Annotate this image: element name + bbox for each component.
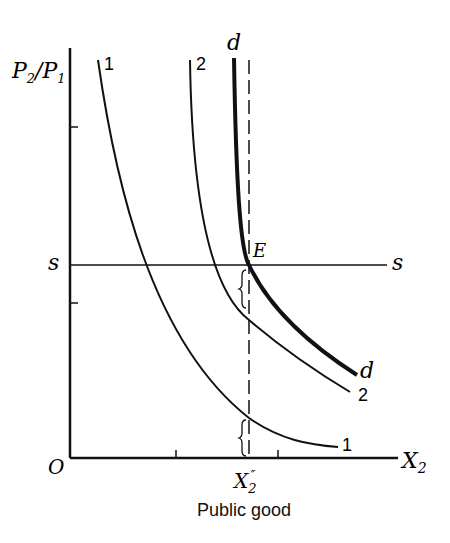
curve1-end-label: 1 xyxy=(342,435,352,456)
aggregate-demand-curve xyxy=(234,58,357,375)
y-axis-label: P2/P1 xyxy=(12,58,66,86)
caption: Public good xyxy=(197,500,291,521)
brace-lower xyxy=(239,420,246,456)
curve-d-end-label: d xyxy=(360,358,374,383)
x-axis-label: X2 xyxy=(402,448,427,476)
demand-curve-1 xyxy=(98,60,338,447)
curve2-end-label: 2 xyxy=(358,385,368,406)
public-good-diagram xyxy=(0,0,450,543)
curve-d-top-label: d xyxy=(227,30,241,55)
curve2-top-label: 2 xyxy=(196,54,206,75)
curve1-top-label: 1 xyxy=(104,54,114,75)
origin-label: O xyxy=(48,455,64,479)
supply-right-label: s xyxy=(392,250,403,275)
supply-left-label: s xyxy=(48,250,59,275)
demand-curve-2 xyxy=(190,60,350,392)
quantity-label: X2″ xyxy=(234,468,255,496)
brace-upper xyxy=(239,270,246,308)
equilibrium-label: E xyxy=(253,240,266,261)
